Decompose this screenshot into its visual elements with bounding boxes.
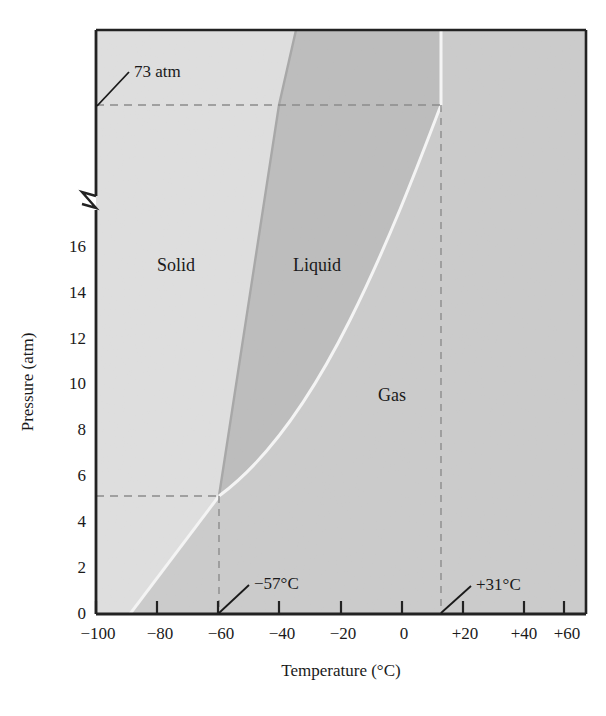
phase-diagram-figure: −100 −80 −60 −40 −20 0 +20 +40 +60 16 14… [0,0,606,716]
x-axis-title: Temperature (°C) [281,661,400,680]
x-tick-label: +20 [452,624,479,643]
callout-label-minus57c: −57°C [254,574,299,593]
y-tick-label: 2 [78,558,87,577]
x-tick-label: +60 [554,624,581,643]
y-tick-label: 6 [78,466,87,485]
x-tick-label: −40 [269,624,296,643]
region-label-gas: Gas [378,385,406,405]
x-tick-label: −100 [80,624,115,643]
y-tick-label: 10 [69,374,86,393]
callout-label-73atm: 73 atm [134,62,181,81]
y-axis-title: Pressure (atm) [18,333,37,432]
paper-grain [96,30,586,614]
x-tick-label: −20 [330,624,357,643]
y-tick-label: 14 [69,283,87,302]
x-tick-label: 0 [400,624,409,643]
y-tick-label: 8 [78,420,87,439]
x-tick-label: −60 [208,624,235,643]
phase-diagram-svg: −100 −80 −60 −40 −20 0 +20 +40 +60 16 14… [0,0,606,716]
x-tick-label: −80 [147,624,174,643]
y-axis-break-mark [82,192,96,208]
y-tick-label: 16 [69,237,86,256]
y-axis-tick-labels: 16 14 12 10 8 6 4 2 0 [69,237,87,623]
plot-regions [96,30,586,614]
callout-label-plus31c: +31°C [476,575,521,594]
y-tick-label: 0 [78,604,87,623]
y-tick-label: 4 [78,512,87,531]
x-axis-tick-labels: −100 −80 −60 −40 −20 0 +20 +40 +60 [80,624,580,643]
region-label-liquid: Liquid [293,255,341,275]
y-tick-label: 12 [69,329,86,348]
x-tick-label: +40 [511,624,538,643]
region-label-solid: Solid [157,255,195,275]
